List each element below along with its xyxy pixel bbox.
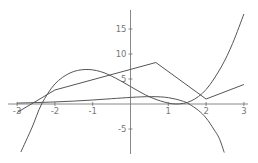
- x-tick-label: 1: [166, 106, 171, 116]
- curve-cubic: [21, 14, 244, 152]
- x-tick-label: 2: [203, 106, 208, 116]
- y-tick-label: -5: [118, 124, 126, 134]
- function-plot: -3-2-1123 -551015: [0, 0, 258, 163]
- y-tick-label: 15: [116, 24, 127, 34]
- x-tick-label: 3: [241, 106, 246, 116]
- x-tick-label: -1: [88, 106, 96, 116]
- x-tick-label: -2: [51, 106, 59, 116]
- y-tick-label: 10: [116, 49, 127, 59]
